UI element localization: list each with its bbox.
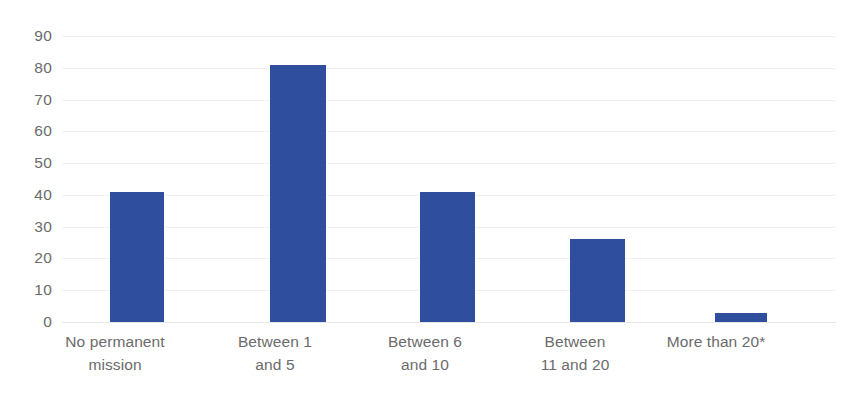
x-tick-label-between-11-and-20: Between 11 and 20 (500, 330, 650, 376)
y-tick-label-90: 90 (12, 27, 52, 45)
bars-layer (62, 36, 836, 322)
y-tick-label-70: 70 (12, 91, 52, 109)
x-tick-label-more-than-20: More than 20* (636, 330, 796, 353)
y-tick-label-30: 30 (12, 218, 52, 236)
x-tick-label-between-6-and-10: Between 6 and 10 (350, 330, 500, 376)
bar-between-1-and-5 (270, 65, 326, 322)
x-tick-label-between-1-and-5: Between 1 and 5 (200, 330, 350, 376)
y-tick-label-60: 60 (12, 122, 52, 140)
x-tick-label-no-permanent-mission: No permanent mission (40, 330, 190, 376)
y-tick-label-50: 50 (12, 154, 52, 172)
bar-no-permanent-mission (110, 192, 164, 322)
y-tick-label-80: 80 (12, 59, 52, 77)
x-axis-baseline (62, 322, 836, 323)
y-tick-label-0: 0 (12, 313, 52, 331)
y-tick-label-10: 10 (12, 281, 52, 299)
y-tick-label-40: 40 (12, 186, 52, 204)
bar-between-6-and-10 (420, 192, 475, 322)
y-tick-label-20: 20 (12, 249, 52, 267)
bar-between-11-and-20 (570, 239, 625, 322)
bar-more-than-20 (715, 313, 767, 323)
bar-chart: 90 80 70 60 50 40 30 20 10 0 No permanen… (0, 0, 861, 402)
plot-area (62, 36, 836, 322)
